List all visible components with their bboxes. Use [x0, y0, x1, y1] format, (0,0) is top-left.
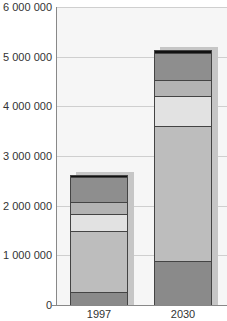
bar-segment [155, 261, 211, 305]
bar-segment [71, 177, 127, 202]
x-tick-label: 2030 [171, 308, 195, 320]
bar-segment [155, 53, 211, 80]
y-tick-label: 6 000 000 [3, 1, 52, 13]
stacked-bar-chart: 01 000 0002 000 0003 000 0004 000 0005 0… [0, 0, 227, 321]
bar-segment [155, 126, 211, 261]
bar-segment [155, 96, 211, 126]
bar-2030 [154, 50, 212, 305]
bar-segment [155, 80, 211, 96]
y-tick-label: 3 000 000 [3, 150, 52, 162]
bar-segment [71, 175, 127, 177]
bar-segment [155, 50, 211, 53]
y-tick-label: 5 000 000 [3, 51, 52, 63]
y-tick-label: 0 [46, 299, 52, 311]
y-tick-label: 1 000 000 [3, 249, 52, 261]
bar-segment [71, 231, 127, 292]
x-tick-label: 1997 [87, 308, 111, 320]
bar-segment [71, 292, 127, 305]
x-axis [52, 305, 227, 306]
y-tick-label: 4 000 000 [3, 100, 52, 112]
y-tick-label: 2 000 000 [3, 200, 52, 212]
y-axis [56, 7, 57, 306]
bar-segment [71, 202, 127, 214]
bar-segment [71, 214, 127, 231]
gridline [56, 7, 227, 8]
bar-1997 [70, 175, 128, 305]
